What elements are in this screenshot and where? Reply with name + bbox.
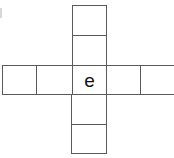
grid-cell-top-1 bbox=[72, 5, 107, 36]
grid-cell-mid-2 bbox=[36, 65, 73, 95]
grid-cell-mid-5 bbox=[140, 65, 174, 95]
corner-mark bbox=[0, 8, 2, 18]
grid-cell-mid-4 bbox=[106, 65, 141, 95]
grid-cell-bottom-1 bbox=[71, 94, 107, 125]
grid-cell-top-2 bbox=[72, 35, 107, 66]
grid-cell-mid-1 bbox=[2, 65, 37, 95]
grid-cell-center: e bbox=[72, 65, 107, 95]
grid-cell-bottom-2 bbox=[71, 124, 107, 154]
